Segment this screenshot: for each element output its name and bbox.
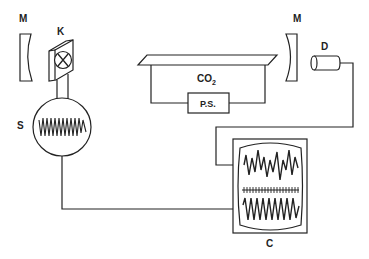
oscilloscope-label: C: [266, 238, 273, 249]
mirror-right-label: M: [293, 13, 301, 24]
mirror-right: [286, 34, 297, 81]
diagram-canvas: M K S CO2 P.S. M D: [0, 0, 369, 259]
detector-label: D: [321, 41, 328, 52]
mirror-left: [20, 34, 32, 81]
signal-source-label: S: [17, 120, 24, 131]
chopper-label: K: [57, 26, 65, 37]
wire-source-to-scope: [62, 156, 233, 209]
signal-source-s: [33, 98, 91, 156]
co2-label: CO2: [197, 73, 216, 86]
oscilloscope-c: [233, 139, 307, 233]
chopper-k: [49, 40, 73, 99]
power-supply-label: P.S.: [200, 99, 216, 109]
detector-d: [311, 56, 340, 70]
mirror-left-label: M: [19, 13, 27, 24]
